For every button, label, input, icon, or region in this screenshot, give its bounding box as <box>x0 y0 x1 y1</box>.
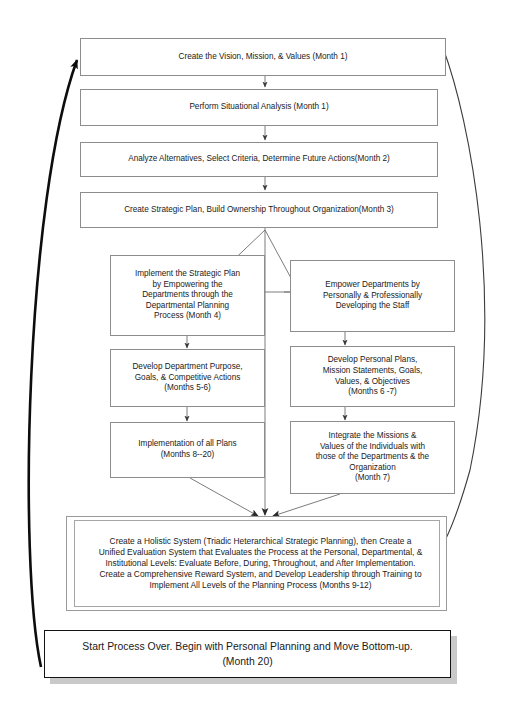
node-restart-process[interactable]: Start Process Over. Begin with Personal … <box>44 630 451 678</box>
node-restart-process-label: Start Process Over. Begin with Personal … <box>51 639 444 669</box>
node-implement-strategic-plan[interactable]: Implement the Strategic Plan by Empoweri… <box>110 255 265 336</box>
node-holistic-system-label: Create a Holistic System (Triadic Hetera… <box>97 536 424 591</box>
node-empower-departments[interactable]: Empower Departments by Personally & Prof… <box>290 260 455 332</box>
node-create-vision-label: Create the Vision, Mission, & Values (Mo… <box>87 52 439 63</box>
node-create-vision[interactable]: Create the Vision, Mission, & Values (Mo… <box>80 38 446 76</box>
node-implementation-all-plans-label: Implementation of all Plans (Months 8--2… <box>117 439 258 460</box>
node-develop-personal-plans[interactable]: Develop Personal Plans, Mission Statemen… <box>290 346 455 407</box>
node-create-strategic-plan-label: Create Strategic Plan, Build Ownership T… <box>87 205 431 216</box>
edge-implementation-to-holistic <box>190 478 258 516</box>
node-analyze-alternatives-label: Analyze Alternatives, Select Criteria, D… <box>87 154 431 165</box>
node-implementation-all-plans[interactable]: Implementation of all Plans (Months 8--2… <box>110 422 265 478</box>
node-situational-analysis[interactable]: Perform Situational Analysis (Month 1) <box>80 89 438 126</box>
node-develop-personal-plans-label: Develop Personal Plans, Mission Statemen… <box>297 355 448 398</box>
node-empower-departments-label: Empower Departments by Personally & Prof… <box>297 280 448 312</box>
node-integrate-missions[interactable]: Integrate the Missions & Values of the I… <box>290 421 455 494</box>
node-situational-analysis-label: Perform Situational Analysis (Month 1) <box>87 102 431 113</box>
node-create-strategic-plan[interactable]: Create Strategic Plan, Build Ownership T… <box>80 192 438 228</box>
node-develop-department-purpose-label: Develop Department Purpose, Goals, & Com… <box>117 362 258 394</box>
node-implement-strategic-plan-label: Implement the Strategic Plan by Empoweri… <box>117 269 258 322</box>
node-analyze-alternatives[interactable]: Analyze Alternatives, Select Criteria, D… <box>80 142 438 177</box>
flowchart-canvas: Create the Vision, Mission, & Values (Mo… <box>0 0 516 717</box>
node-integrate-missions-label: Integrate the Missions & Values of the I… <box>297 431 448 484</box>
edge-integrate-to-holistic <box>273 494 340 516</box>
node-holistic-system[interactable]: Create a Holistic System (Triadic Hetera… <box>66 516 447 611</box>
node-develop-department-purpose[interactable]: Develop Department Purpose, Goals, & Com… <box>110 349 265 407</box>
